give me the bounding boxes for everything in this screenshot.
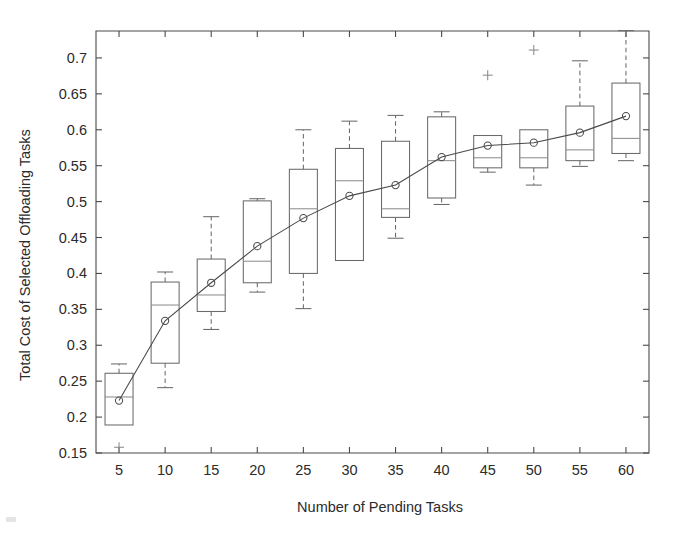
x-tick-label: 30 — [341, 462, 357, 478]
x-tick-label: 45 — [480, 462, 496, 478]
x-tick-label: 50 — [526, 462, 542, 478]
y-tick-label: 0.55 — [59, 158, 87, 174]
plot-background — [0, 0, 687, 536]
y-tick-label: 0.15 — [59, 445, 87, 461]
x-tick-label: 35 — [387, 462, 403, 478]
y-tick-label: 0.2 — [67, 409, 87, 425]
y-tick-label: 0.3 — [67, 337, 87, 353]
x-tick-label: 40 — [434, 462, 450, 478]
y-tick-label: 0.25 — [59, 373, 87, 389]
boxplot-figure: 0.150.20.250.30.350.40.450.50.550.60.650… — [0, 0, 687, 536]
x-axis-label: Number of Pending Tasks — [297, 499, 463, 515]
x-tick-label: 10 — [157, 462, 173, 478]
y-axis-label: Total Cost of Selected Offloading Tasks — [17, 129, 33, 381]
chart-canvas: 0.150.20.250.30.350.40.450.50.550.60.650… — [0, 0, 687, 536]
x-tick-label: 60 — [618, 462, 634, 478]
y-tick-label: 0.35 — [59, 301, 87, 317]
y-tick-label: 0.4 — [67, 265, 87, 281]
x-tick-label: 25 — [295, 462, 311, 478]
y-tick-label: 0.65 — [59, 86, 87, 102]
y-tick-label: 0.45 — [59, 230, 87, 246]
y-tick-label: 0.5 — [67, 194, 87, 210]
y-tick-label: 0.6 — [67, 122, 87, 138]
y-tick-label: 0.7 — [67, 50, 87, 66]
scan-artifact — [6, 517, 16, 522]
x-tick-label: 20 — [249, 462, 265, 478]
x-tick-label: 55 — [572, 462, 588, 478]
x-tick-label: 5 — [115, 462, 123, 478]
x-tick-label: 15 — [203, 462, 219, 478]
